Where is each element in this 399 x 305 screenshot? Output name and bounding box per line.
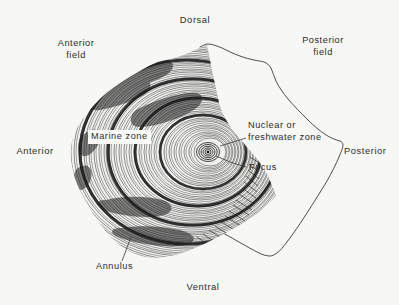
focus-nucleus: [195, 139, 221, 165]
label-ventral: Ventral: [181, 281, 225, 293]
label-posterior: Posterior: [344, 145, 394, 157]
anterior-field-line1: Anterior: [58, 38, 95, 48]
label-posterior-field: Posterior field: [292, 35, 354, 59]
label-marine-zone: Marine zone: [88, 130, 151, 144]
label-anterior-field: Anterior field: [47, 38, 105, 62]
fish-scale-figure: Dorsal Ventral Anterior Posterior Anteri…: [0, 0, 399, 305]
label-focus: Focus: [249, 162, 277, 174]
nuclear-zone-line2: freshwater zone: [248, 132, 322, 142]
nuclear-zone-line1: Nuclear or: [248, 120, 296, 130]
label-annulus: Annulus: [96, 261, 133, 273]
posterior-field-line1: Posterior: [302, 35, 344, 45]
posterior-field-line2: field: [313, 47, 333, 57]
label-nuclear-zone: Nuclear or freshwater zone: [248, 120, 324, 144]
label-anterior: Anterior: [12, 145, 58, 157]
label-dorsal: Dorsal: [173, 14, 217, 26]
anterior-field-line2: field: [66, 50, 86, 60]
